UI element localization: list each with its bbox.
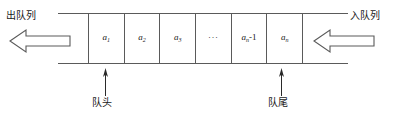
ellipsis-label: ··· xyxy=(208,33,219,42)
queue-tail-label: 队尾 xyxy=(268,98,288,108)
cell-base: a xyxy=(103,32,108,42)
dequeue-label: 出队列 xyxy=(6,11,36,21)
cell-subscript: n xyxy=(285,37,288,43)
enqueue-arrow-icon xyxy=(312,28,376,54)
queue-cell: an xyxy=(266,13,303,64)
cell-subscript: n xyxy=(246,37,249,43)
cell-suffix: -1 xyxy=(249,32,257,42)
queue-cell: an-1 xyxy=(231,13,267,64)
queue-cell-label: a1 xyxy=(103,33,111,42)
cell-base: a xyxy=(174,32,179,42)
cell-subscript: 2 xyxy=(143,37,146,43)
queue-cell: a2 xyxy=(124,13,160,64)
cell-base: a xyxy=(138,32,143,42)
queue-cell-ellipsis: ··· xyxy=(195,13,231,64)
enqueue-label: 入队列 xyxy=(350,11,380,21)
queue-cell-label: a3 xyxy=(174,33,182,42)
queue-cells: a1 a2 a3 ··· an-1 an xyxy=(88,13,303,64)
queue-cell-label: a2 xyxy=(138,33,146,42)
queue-cell-label: an xyxy=(281,33,289,42)
cell-base: a xyxy=(242,32,247,42)
queue-tail-pointer-icon xyxy=(277,68,286,96)
cell-subscript: 3 xyxy=(178,37,181,43)
queue-cell-label: an-1 xyxy=(242,33,257,42)
dequeue-arrow-icon xyxy=(8,28,72,54)
queue-head-pointer-icon xyxy=(101,68,110,96)
queue-cell: a3 xyxy=(159,13,195,64)
queue-head-label: 队头 xyxy=(92,98,112,108)
queue-cell: a1 xyxy=(88,13,124,64)
cell-base: a xyxy=(281,32,286,42)
queue-diagram: a1 a2 a3 ··· an-1 an 出队列 入队列 xyxy=(0,0,407,133)
cell-subscript: 1 xyxy=(107,37,110,43)
